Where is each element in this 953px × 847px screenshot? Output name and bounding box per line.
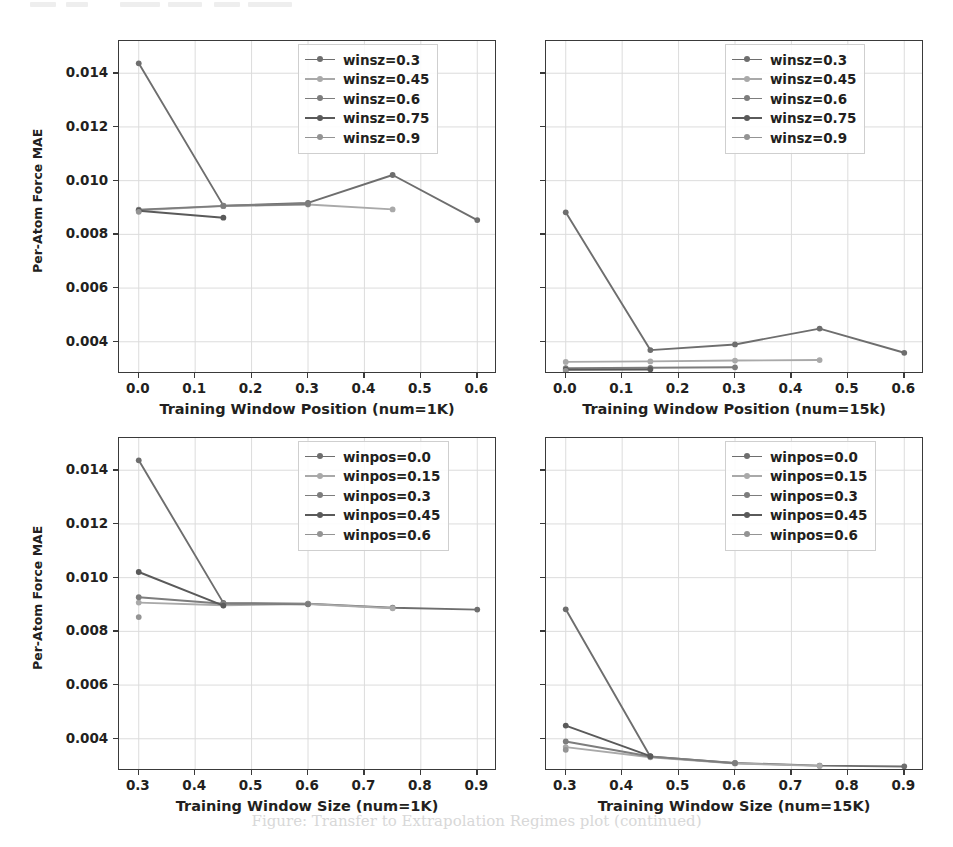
legend-line-icon	[305, 490, 335, 502]
y-tick-label: 0.012	[51, 118, 108, 134]
legend-label: winsz=0.75	[770, 110, 856, 126]
x-tick-label: 0.4	[596, 777, 646, 793]
series-marker	[817, 326, 823, 332]
legend-label: winpos=0.6	[343, 527, 431, 543]
series-marker	[390, 172, 396, 178]
x-tick-label: 0.2	[653, 380, 703, 396]
series-marker	[136, 209, 142, 215]
y-tick-mark	[113, 684, 118, 685]
y-tick-mark	[540, 72, 545, 73]
series-marker	[647, 347, 653, 353]
legend-item[interactable]: winsz=0.9	[732, 128, 856, 148]
y-tick-mark	[540, 469, 545, 470]
y-tick-label: 0.006	[51, 279, 108, 295]
series-marker	[136, 457, 142, 463]
x-tick-label: 0.4	[338, 380, 388, 396]
x-tick-label: 0.0	[540, 380, 590, 396]
legend-item[interactable]: winsz=0.3	[305, 50, 429, 70]
series-marker	[220, 203, 226, 209]
x-tick-mark	[903, 373, 904, 378]
x-tick-label: 0.9	[451, 777, 501, 793]
series-marker	[136, 594, 142, 600]
legend-item[interactable]: winpos=0.6	[732, 525, 867, 545]
y-tick-mark	[540, 233, 545, 234]
y-tick-label: 0.008	[51, 622, 108, 638]
legend-item[interactable]: winpos=0.15	[732, 467, 867, 487]
y-tick-mark	[540, 287, 545, 288]
y-tick-label: 0.010	[51, 172, 108, 188]
x-tick-mark	[621, 770, 622, 775]
series-marker	[732, 760, 738, 766]
legend-item[interactable]: winpos=0.3	[305, 486, 440, 506]
x-axis-label: Training Window Position (num=15k)	[545, 401, 923, 417]
series-marker	[901, 764, 907, 770]
legend-line-icon	[305, 451, 335, 463]
legend-item[interactable]: winsz=0.75	[732, 109, 856, 129]
x-tick-mark	[621, 373, 622, 378]
x-tick-mark	[251, 770, 252, 775]
legend-item[interactable]: winsz=0.75	[305, 109, 429, 129]
legend-label: winpos=0.3	[770, 488, 858, 504]
series-line	[566, 360, 820, 362]
y-tick-label: 0.008	[51, 225, 108, 241]
x-tick-label: 0.2	[226, 380, 276, 396]
series-marker	[563, 359, 569, 365]
legend-item[interactable]: winpos=0.0	[732, 447, 867, 467]
legend-item[interactable]: winsz=0.6	[732, 89, 856, 109]
legend-item[interactable]: winsz=0.45	[732, 70, 856, 90]
x-tick-label: 0.5	[395, 380, 445, 396]
x-tick-mark	[363, 373, 364, 378]
x-tick-label: 0.7	[338, 777, 388, 793]
legend-label: winsz=0.6	[343, 91, 420, 107]
y-tick-mark	[113, 126, 118, 127]
series-marker	[305, 201, 311, 207]
y-tick-mark	[540, 341, 545, 342]
legend-top-right: winsz=0.3winsz=0.45winsz=0.6winsz=0.75wi…	[725, 44, 865, 154]
legend-item[interactable]: winpos=0.15	[305, 467, 440, 487]
y-tick-mark	[113, 233, 118, 234]
x-tick-mark	[734, 770, 735, 775]
series-marker	[647, 753, 653, 759]
y-tick-mark	[113, 287, 118, 288]
y-tick-label: 0.004	[51, 333, 108, 349]
y-tick-label: 0.006	[51, 676, 108, 692]
legend-bottom-right: winpos=0.0winpos=0.15winpos=0.3winpos=0.…	[725, 441, 876, 551]
series-marker	[474, 217, 480, 223]
x-tick-mark	[476, 373, 477, 378]
x-tick-label: 0.6	[451, 380, 501, 396]
legend-item[interactable]: winpos=0.0	[305, 447, 440, 467]
legend-item[interactable]: winpos=0.3	[732, 486, 867, 506]
legend-item[interactable]: winsz=0.6	[305, 89, 429, 109]
legend-item[interactable]: winpos=0.45	[732, 506, 867, 526]
legend-line-icon	[305, 93, 335, 105]
x-tick-mark	[565, 770, 566, 775]
series-marker	[136, 569, 142, 575]
y-tick-mark	[113, 180, 118, 181]
legend-line-icon	[305, 529, 335, 541]
x-tick-mark	[194, 770, 195, 775]
x-tick-label: 0.9	[878, 777, 928, 793]
legend-item[interactable]: winsz=0.45	[305, 70, 429, 90]
legend-item[interactable]: winpos=0.6	[305, 525, 440, 545]
x-axis-label: Training Window Position (num=1K)	[118, 401, 496, 417]
series-marker	[647, 367, 653, 373]
y-tick-mark	[113, 630, 118, 631]
y-tick-mark	[113, 72, 118, 73]
series-marker	[220, 603, 226, 609]
x-tick-mark	[678, 373, 679, 378]
x-tick-label: 0.3	[282, 380, 332, 396]
legend-line-icon	[732, 451, 762, 463]
legend-label: winsz=0.9	[770, 130, 847, 146]
figure-caption: Figure: Transfer to Extrapolation Regime…	[0, 812, 953, 830]
x-tick-mark	[420, 770, 421, 775]
legend-line-icon	[732, 132, 762, 144]
legend-item[interactable]: winpos=0.45	[305, 506, 440, 526]
series-line	[139, 211, 224, 218]
legend-label: winsz=0.75	[343, 110, 429, 126]
legend-label: winsz=0.3	[770, 52, 847, 68]
legend-item[interactable]: winsz=0.9	[305, 128, 429, 148]
figure-root: 0.0040.0060.0080.0100.0120.0140.00.10.20…	[0, 0, 953, 847]
legend-label: winpos=0.0	[343, 449, 431, 465]
y-tick-mark	[113, 577, 118, 578]
legend-item[interactable]: winsz=0.3	[732, 50, 856, 70]
